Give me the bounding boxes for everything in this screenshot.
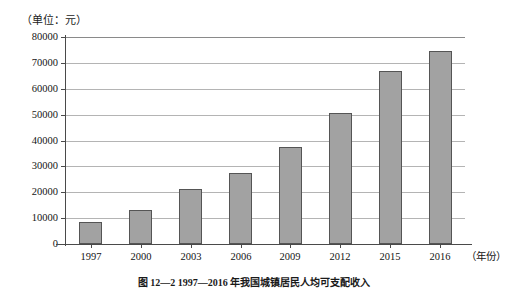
- bar-2003: [179, 189, 202, 244]
- gridline: [66, 141, 465, 142]
- bar-2012: [329, 113, 352, 244]
- x-axis-tick: [91, 244, 92, 248]
- y-axis-tick: [61, 37, 66, 38]
- bar-1997: [79, 222, 102, 244]
- y-axis-tick-label: 30000: [2, 160, 58, 171]
- bar-2016: [429, 51, 452, 244]
- y-axis-tick-label: 0: [2, 238, 58, 249]
- gridline: [66, 166, 465, 167]
- figure-caption: 图 12—2 1997—2016 年我国城镇居民人均可支配收入: [0, 277, 508, 288]
- y-axis-tick-label: 80000: [2, 31, 58, 42]
- gridline: [66, 37, 465, 38]
- plot-area: [66, 37, 465, 244]
- x-axis-tick: [290, 244, 291, 248]
- y-axis-tick: [61, 218, 66, 219]
- x-axis-tick-label: 2003: [181, 251, 202, 263]
- x-axis-tick-label: 1997: [81, 251, 102, 263]
- y-axis-tick: [61, 141, 66, 142]
- x-axis-tick-label: 2016: [430, 251, 451, 263]
- x-axis-tick: [440, 244, 441, 248]
- gridline: [66, 115, 465, 116]
- y-axis-tick: [61, 89, 66, 90]
- x-axis-tick-label: 2015: [380, 251, 401, 263]
- gridline: [66, 218, 465, 219]
- y-axis-tick-label: 60000: [2, 83, 58, 94]
- x-axis-tick: [241, 244, 242, 248]
- x-axis-tick-label: 2000: [131, 251, 152, 263]
- gridline: [66, 192, 465, 193]
- bar-2009: [279, 147, 302, 244]
- x-axis-tick-label: 2009: [280, 251, 301, 263]
- y-axis-tick: [61, 244, 66, 245]
- gridline: [66, 63, 465, 64]
- x-axis-title: （年份）: [466, 251, 506, 263]
- y-axis-tick-label: 10000: [2, 212, 58, 223]
- y-axis-tick-label: 40000: [2, 135, 58, 146]
- gridline: [66, 89, 465, 90]
- x-axis-tick: [191, 244, 192, 248]
- x-axis-tick: [340, 244, 341, 248]
- y-axis-tick-label: 70000: [2, 57, 58, 68]
- x-axis-tick-label: 2012: [330, 251, 351, 263]
- bar-2000: [129, 210, 152, 244]
- y-axis-tick-label: 20000: [2, 186, 58, 197]
- bar-2015: [379, 71, 402, 244]
- x-axis-tick: [390, 244, 391, 248]
- x-axis-tick-label: 2006: [231, 251, 252, 263]
- y-axis-tick: [61, 63, 66, 64]
- y-axis-tick: [61, 115, 66, 116]
- bar-chart-figure: （单位：元） 010000200003000040000500006000070…: [0, 0, 508, 288]
- y-axis-tick: [61, 192, 66, 193]
- y-axis-tick-label: 50000: [2, 109, 58, 120]
- x-axis-tick: [141, 244, 142, 248]
- y-axis-tick: [61, 166, 66, 167]
- y-axis-tick-labels: 0100002000030000400005000060000700008000…: [0, 0, 58, 288]
- bar-2006: [229, 173, 252, 244]
- x-axis-line: [56, 244, 472, 245]
